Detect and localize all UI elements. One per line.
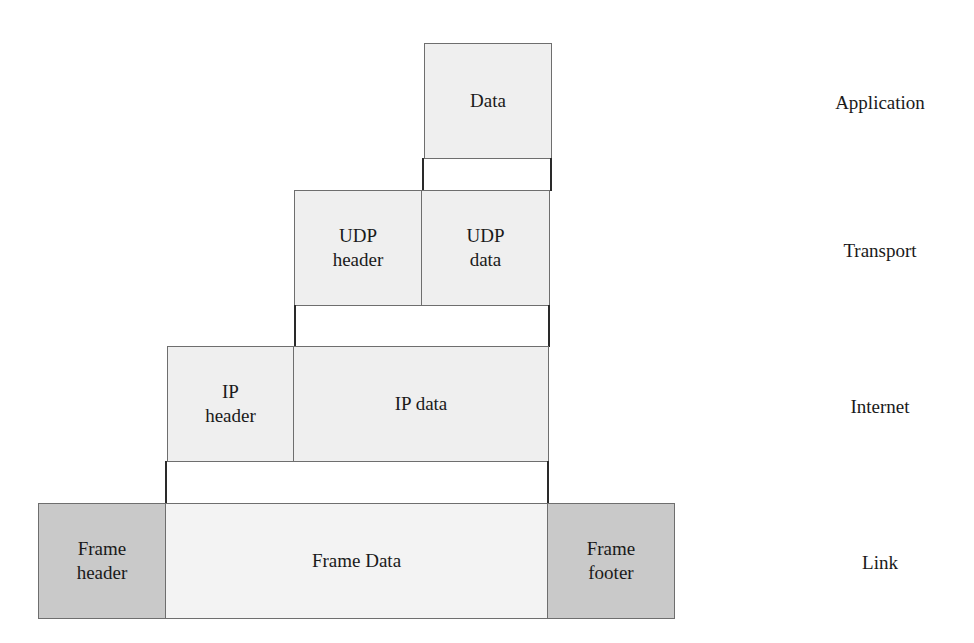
layer-label-internet: Internet (800, 396, 960, 418)
app-data-label: Data (470, 89, 506, 113)
frame-data-label: Frame Data (312, 549, 401, 573)
ip-header-label: IPheader (205, 380, 256, 428)
connector-line (294, 305, 296, 347)
udp-data-label: UDPdata (466, 224, 504, 272)
connector-line (550, 158, 552, 191)
ip-data-box: IP data (293, 346, 549, 462)
layer-label-application: Application (800, 92, 960, 114)
frame-header-box: Frameheader (38, 503, 166, 619)
layer-label-link: Link (800, 552, 960, 574)
udp-data-box: UDPdata (421, 190, 550, 306)
frame-header-label: Frameheader (77, 537, 128, 585)
connector-line (548, 305, 550, 347)
frame-data-box: Frame Data (165, 503, 548, 619)
connector-line (165, 461, 167, 504)
app-data-box: Data (424, 43, 552, 159)
ip-data-label: IP data (395, 392, 448, 416)
ip-header-box: IPheader (167, 346, 294, 462)
udp-header-box: UDPheader (294, 190, 422, 306)
frame-footer-label: Framefooter (587, 537, 636, 585)
connector-line (547, 461, 549, 504)
layer-label-transport: Transport (800, 240, 960, 262)
udp-header-label: UDPheader (333, 224, 384, 272)
frame-footer-box: Framefooter (547, 503, 675, 619)
connector-line (422, 158, 424, 191)
